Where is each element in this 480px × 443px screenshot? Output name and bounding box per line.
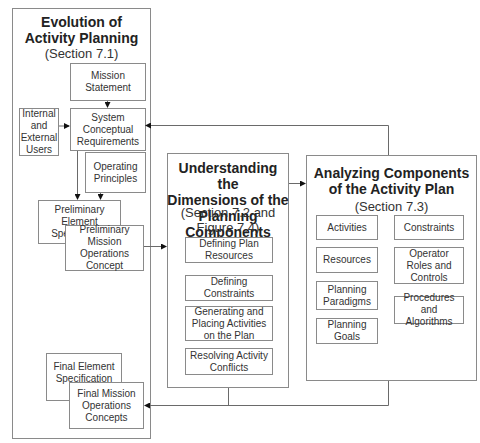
planning-goals-box: Planning Goals (316, 318, 378, 344)
evolution-panel-title: Evolution of Activity Planning (12, 14, 151, 46)
preliminary-mission-ops-box: Preliminary Mission Operations Concept (65, 225, 144, 271)
evolution-panel-subtitle: (Section 7.1) (12, 46, 151, 61)
resources-box: Resources (316, 247, 378, 273)
activities-box: Activities (316, 215, 378, 240)
mission-statement-box: Mission Statement (70, 63, 146, 101)
generating-placing-activities-box: Generating and Placing Activities on the… (185, 306, 273, 341)
defining-plan-resources-box: Defining Plan Resources (185, 237, 273, 263)
final-mission-ops-box: Final Mission Operations Concepts (69, 382, 144, 429)
planning-components-subtitle: (Section 7.2 and Figure 7.4) (167, 205, 289, 235)
system-conceptual-requirements-box: System Conceptual Requirements (70, 108, 146, 151)
activity-plan-components-title: Analyzing Components of the Activity Pla… (306, 165, 477, 197)
activity-plan-components-subtitle: (Section 7.3) (306, 199, 477, 214)
procedures-algorithms-box: Procedures and Algorithms (394, 296, 464, 324)
internal-external-users-box: Internal and External Users (19, 108, 59, 156)
defining-constraints-box: Defining Constraints (185, 275, 273, 301)
constraints-box: Constraints (394, 215, 464, 240)
operating-principles-box: Operating Principles (85, 152, 146, 193)
planning-paradigms-box: Planning Paradigms (316, 281, 378, 310)
operator-roles-controls-box: Operator Roles and Controls (394, 247, 464, 284)
resolving-activity-conflicts-box: Resolving Activity Conflicts (185, 348, 273, 375)
